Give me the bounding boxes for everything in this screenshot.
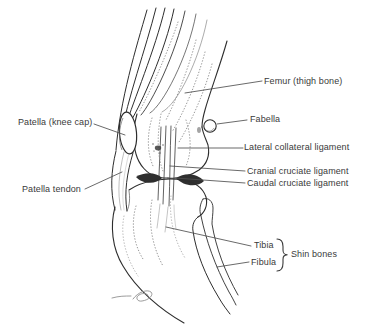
label-caudal-cruciate-ligament: Caudal cruciate ligament: [247, 178, 348, 189]
label-shin-bones: Shin bones: [291, 249, 337, 260]
stipple-shading: [123, 22, 212, 276]
tibia-outline: [112, 179, 230, 323]
leader-patella-tendon: [85, 172, 122, 189]
label-patella: Patella (knee cap): [18, 117, 92, 128]
label-fabella: Fabella: [250, 114, 280, 125]
label-lateral-collateral-ligament: Lateral collateral ligament: [244, 142, 349, 153]
shin-bones-brace: [277, 239, 288, 271]
artist-signature: [112, 291, 152, 301]
fabella-shape: [204, 120, 216, 132]
femur-outline: [133, 41, 227, 178]
patella-shape: [118, 111, 139, 154]
leader-cranial-cruciate: [170, 166, 245, 171]
label-femur: Femur (thigh bone): [264, 76, 342, 87]
leader-fibula: [217, 262, 249, 267]
label-tibia: Tibia: [254, 240, 274, 251]
label-cranial-cruciate-ligament: Cranial cruciate ligament: [247, 166, 349, 177]
label-patella-tendon: Patella tendon: [22, 184, 81, 195]
knee-illustration: [0, 0, 366, 327]
fibula-outline: [200, 198, 238, 305]
leader-fabella: [217, 120, 247, 124]
condyle-dark-spot: [152, 127, 201, 154]
knee-anatomy-diagram: Femur (thigh bone) Patella (knee cap) Fa…: [0, 0, 366, 327]
leader-lines: [85, 81, 262, 267]
leader-femur: [185, 81, 262, 93]
label-fibula: Fibula: [251, 257, 276, 268]
